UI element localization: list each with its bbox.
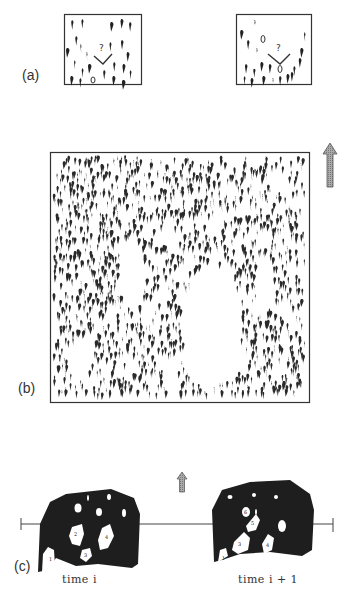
- svg-text:3: 3: [238, 541, 241, 547]
- svg-text:1: 1: [222, 555, 225, 561]
- svg-text:3: 3: [84, 552, 87, 558]
- svg-text:1: 1: [49, 556, 52, 562]
- time-label-right: time i + 1: [238, 573, 298, 586]
- svg-text:6: 6: [244, 509, 247, 515]
- svg-text:5: 5: [251, 520, 254, 526]
- svg-text:4: 4: [266, 542, 269, 548]
- school-outline-time-i: 1 2 3 4: [36, 484, 146, 576]
- svg-text:2: 2: [74, 531, 77, 537]
- school-outline-time-i-plus-1: 1 3 4 5 6: [210, 470, 320, 570]
- time-label-left: time i: [62, 573, 97, 586]
- svg-text:4: 4: [105, 534, 108, 540]
